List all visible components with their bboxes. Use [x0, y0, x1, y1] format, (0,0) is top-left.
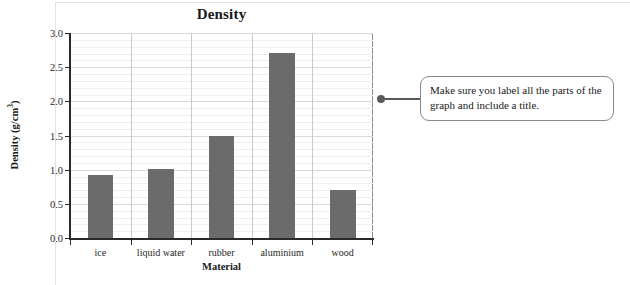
callout-box: Make sure you label all the parts of the… [420, 76, 614, 121]
bar-ice [88, 175, 114, 238]
y-axis-tick [65, 238, 70, 239]
x-tick-label: aluminium [260, 247, 303, 258]
y-tick-label: 2.5 [50, 62, 63, 73]
y-tick-label: 1.5 [50, 130, 63, 141]
x-tick-label: liquid water [137, 247, 185, 258]
x-axis-tick [70, 240, 71, 245]
y-tick-label: 1.0 [50, 164, 63, 175]
bar-wood [330, 190, 356, 238]
y-axis-tick [65, 67, 70, 68]
y-tick-label: 0.0 [50, 233, 63, 244]
y-axis-tick [65, 101, 70, 102]
y-tick-label: 3.0 [50, 28, 63, 39]
x-axis-ticks [70, 240, 373, 246]
callout-anchor-dot [377, 95, 385, 103]
plot-area [70, 33, 373, 238]
x-axis-tick [252, 240, 253, 245]
x-tick-label: wood [332, 247, 354, 258]
bar-rubber [209, 136, 235, 239]
y-axis-tick [65, 204, 70, 205]
x-axis-title: Material [70, 261, 373, 272]
y-axis-title: Density (g/cm3) [6, 101, 20, 170]
x-tick-label: ice [94, 247, 106, 258]
y-axis-tick [65, 136, 70, 137]
callout-text: Make sure you label all the parts of the… [430, 83, 604, 113]
x-axis-tick [191, 240, 192, 245]
bar-chart: Density 0.00.51.01.52.02.53.0 iceliquid … [0, 0, 400, 285]
chart-title: Density [70, 6, 373, 23]
y-axis-tick [65, 170, 70, 171]
x-axis-tick [131, 240, 132, 245]
y-axis-tick [65, 33, 70, 34]
callout-leader-line [385, 98, 422, 100]
y-axis-title-exponent: 3 [6, 104, 15, 108]
bars-group [70, 33, 373, 238]
x-tick-label: rubber [208, 247, 234, 258]
y-axis-title-base: Density (g/cm [9, 108, 20, 170]
bar-liquid-water [148, 169, 174, 238]
y-axis-title-close: ) [9, 101, 20, 105]
bar-aluminium [269, 53, 295, 238]
x-axis-tick [372, 240, 373, 245]
x-axis-tick [312, 240, 313, 245]
y-tick-label: 2.0 [50, 96, 63, 107]
y-tick-label: 0.5 [50, 198, 63, 209]
y-axis-ticks: 0.00.51.01.52.02.53.0 [70, 33, 71, 238]
